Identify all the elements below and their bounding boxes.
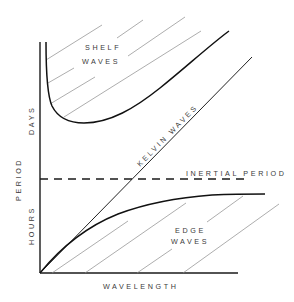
edge-waves-hatching	[52, 196, 279, 273]
shelf-waves-hatching	[46, 17, 201, 117]
shelf-waves-curve	[46, 31, 229, 123]
inertial-period-label: INERTIAL PERIOD	[186, 169, 287, 178]
shelf-waves-label-2: WAVES	[82, 57, 120, 66]
shelf-waves-label-1: SHELF	[85, 43, 121, 52]
edge-waves-label-1: EDGE	[175, 226, 206, 235]
y-axis-label: PERIOD	[14, 158, 23, 201]
kelvin-waves-label: KELVIN WAVES	[135, 103, 200, 169]
edge-waves-curve	[40, 194, 265, 273]
y-axis-hours-label: HOURS	[27, 206, 36, 245]
x-axis-label: WAVELENGTH	[103, 282, 179, 291]
wave-dispersion-diagram: SHELF WAVES EDGE WAVES KELVIN WAVES INER…	[0, 0, 294, 302]
edge-waves-label-2: WAVES	[171, 237, 209, 246]
y-axis-days-label: DAYS	[27, 106, 36, 135]
